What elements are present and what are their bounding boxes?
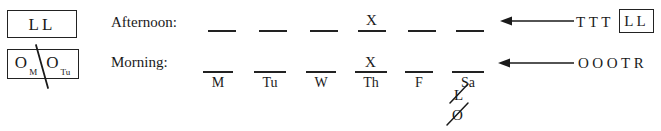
afternoon-blank-m[interactable] (208, 30, 236, 32)
afternoon-legend-box: LL (7, 10, 77, 38)
pool-token: R (634, 55, 648, 71)
legend-token: OM (15, 54, 38, 74)
morning-legend-box: OMOTu (7, 49, 79, 79)
afternoon-mark-th: X (366, 13, 377, 28)
pool-token: T (601, 14, 614, 30)
afternoon-blank-tu[interactable] (259, 30, 287, 32)
pool-token: T (589, 14, 602, 30)
morning-legend-tokens: OMOTu (15, 54, 71, 74)
morning-pool-loose-tokens: OOOTR (578, 56, 647, 71)
pool-box-inner: LL (624, 14, 648, 29)
pool-token: L (624, 13, 636, 29)
afternoon-blank-sa[interactable] (456, 30, 484, 32)
afternoon-blank-f[interactable] (408, 30, 436, 32)
scratch-mark-l: L (454, 88, 463, 103)
pool-token: L (637, 13, 649, 29)
afternoon-pool-boxed-tokens: LL (619, 9, 654, 33)
legend-token: OTu (46, 54, 71, 74)
day-label-w: W (306, 76, 336, 90)
afternoon-arrow-icon (500, 14, 574, 28)
afternoon-blank-w[interactable] (310, 30, 338, 32)
afternoon-blank-th[interactable] (358, 30, 386, 32)
morning-row-label: Morning: (111, 55, 168, 70)
scratch-strikethrough-icon (447, 103, 475, 131)
day-label-f: F (405, 76, 433, 90)
afternoon-pool-loose-tokens: TTT (576, 15, 614, 30)
morning-blank-sa[interactable] (452, 71, 484, 73)
day-label-tu: Tu (254, 76, 286, 90)
pool-token: O (578, 55, 592, 71)
morning-blank-tu[interactable] (254, 71, 286, 73)
morning-blank-th[interactable] (355, 71, 387, 73)
pool-token: O (607, 55, 621, 71)
legend-token: L (29, 16, 42, 33)
pool-token: T (621, 55, 634, 71)
legend-token: L (42, 16, 55, 33)
pool-token: O (592, 55, 606, 71)
day-label-th: Th (355, 76, 387, 90)
pool-token: T (576, 14, 589, 30)
morning-arrow-icon (498, 56, 574, 70)
day-label-m: M (203, 76, 233, 90)
afternoon-legend-tokens: LL (29, 16, 56, 33)
morning-mark-th: X (365, 55, 376, 70)
morning-blank-f[interactable] (405, 71, 433, 73)
scratch-mark-o: O (452, 108, 463, 123)
morning-blank-w[interactable] (306, 71, 336, 73)
morning-blank-m[interactable] (203, 71, 233, 73)
afternoon-row-label: Afternoon: (111, 15, 177, 30)
